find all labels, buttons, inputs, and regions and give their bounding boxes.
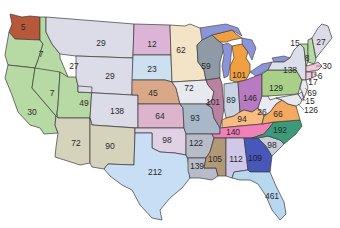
label-ca: 30: [27, 108, 36, 117]
label-ny: 138: [283, 66, 297, 75]
label-ia: 72: [184, 84, 193, 93]
label-al: 112: [229, 155, 243, 164]
label-ct: 17: [308, 78, 317, 87]
label-or: 7: [39, 50, 44, 59]
label-me: 27: [316, 38, 325, 47]
label-va: 66: [273, 110, 282, 119]
label-sc: 98: [267, 141, 276, 150]
label-nv: 7: [50, 89, 55, 98]
label-ks: 64: [155, 112, 164, 121]
label-ar: 122: [189, 139, 203, 148]
label-la: 139: [190, 162, 204, 171]
label-tx: 212: [148, 168, 162, 177]
state-mt[interactable]: [46, 17, 134, 58]
label-mn: 62: [176, 46, 185, 55]
label-ut: 49: [79, 99, 88, 108]
label-md: 126: [304, 106, 318, 115]
label-ok: 98: [162, 136, 171, 145]
label-sd: 23: [147, 65, 156, 74]
label-co: 138: [110, 107, 124, 116]
label-az: 72: [71, 139, 80, 148]
label-ma: 30: [322, 62, 331, 71]
label-pa: 129: [269, 84, 283, 93]
label-nc: 192: [273, 126, 287, 135]
us-map-svg: [0, 0, 340, 228]
label-wy: 29: [105, 72, 114, 81]
label-mi: 101: [232, 71, 246, 80]
label-ga: 109: [248, 154, 262, 163]
label-oh: 146: [243, 94, 257, 103]
label-ms: 105: [208, 155, 222, 164]
label-mt: 29: [96, 39, 105, 48]
label-fl: 461: [265, 192, 279, 201]
label-id: 27: [69, 62, 78, 71]
label-il: 101: [206, 98, 220, 107]
label-wa: 5: [21, 23, 26, 32]
label-mo: 93: [190, 114, 199, 123]
label-nd: 12: [147, 40, 156, 49]
label-nm: 90: [105, 142, 114, 151]
us-map: 5 7 27 30 7 49 72 29 29 138 90 12 23 45 …: [0, 0, 340, 228]
label-ri: 6: [318, 72, 323, 81]
label-wi: 59: [201, 62, 210, 71]
label-ky: 94: [237, 115, 246, 124]
label-nh: 8: [305, 54, 310, 63]
label-ne: 45: [148, 89, 157, 98]
label-tn: 140: [226, 128, 240, 137]
label-wv: 26: [257, 108, 266, 117]
label-vt: 15: [290, 39, 299, 48]
label-in: 89: [226, 96, 235, 105]
